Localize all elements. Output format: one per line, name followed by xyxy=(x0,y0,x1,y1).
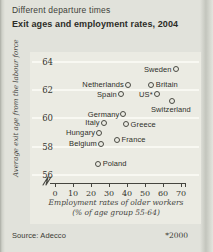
x-tick-label-10: 10 xyxy=(66,189,80,198)
chart-card: Different departure times Exit ages and … xyxy=(0,0,213,252)
x-tick-label-0: 0 xyxy=(48,189,62,198)
point-label-poland: Poland xyxy=(103,159,127,168)
y-tick-label-58: 58 xyxy=(33,142,53,152)
y-tick-label-62: 62 xyxy=(33,85,53,95)
x-tick-60 xyxy=(163,183,164,187)
footnote-year: *2000 xyxy=(120,231,188,240)
x-tick-0 xyxy=(55,183,56,187)
point-label-greece: Greece xyxy=(131,120,156,129)
point-label-belgium: Belgium xyxy=(69,139,97,148)
data-point-italy xyxy=(101,120,107,126)
page-edge-shading-right xyxy=(200,0,213,252)
x-axis-title-line1: Employment rates of older workers xyxy=(46,198,186,207)
y-tick-label-64: 64 xyxy=(33,57,53,67)
x-axis-title-line2: (% of age group 55-64) xyxy=(46,208,186,217)
point-label-netherlands: Netherlands xyxy=(82,80,124,89)
point-label-britain: Britain xyxy=(156,80,178,89)
x-tick-label-60: 60 xyxy=(156,189,170,198)
point-label-us: US* xyxy=(139,90,153,99)
chart-title: Different departure times xyxy=(12,5,202,15)
point-label-italy: Italy xyxy=(85,118,99,127)
point-label-spain: Spain xyxy=(97,90,117,99)
x-tick-label-40: 40 xyxy=(120,189,134,198)
x-tick-label-30: 30 xyxy=(102,189,116,198)
data-point-hungary xyxy=(96,130,102,136)
x-tick-40 xyxy=(127,183,128,187)
data-point-netherlands xyxy=(125,82,131,88)
x-tick-label-70: 70 xyxy=(174,189,188,198)
x-tick-label-50: 50 xyxy=(138,189,152,198)
x-tick-10 xyxy=(73,183,74,187)
x-tick-50 xyxy=(145,183,146,187)
point-label-france: France xyxy=(122,135,146,144)
gridline-64 xyxy=(32,61,199,63)
x-tick-label-20: 20 xyxy=(84,189,98,198)
point-label-switzerland: Switzerland xyxy=(151,105,191,114)
gridline-58 xyxy=(32,146,199,148)
y-tick-label-60: 60 xyxy=(33,113,53,123)
data-point-sweden xyxy=(173,66,179,72)
data-point-poland xyxy=(95,161,101,167)
x-tick-30 xyxy=(109,183,110,187)
x-tick-end xyxy=(185,183,186,187)
data-point-france xyxy=(114,137,120,143)
point-label-sweden: Sweden xyxy=(144,65,172,74)
point-label-hungary: Hungary xyxy=(66,128,95,137)
x-tick-20 xyxy=(91,183,92,187)
x-tick-70 xyxy=(181,183,182,187)
data-point-belgium xyxy=(98,141,104,147)
y-tick-label-56: 56 xyxy=(33,170,53,180)
x-axis-line xyxy=(50,183,186,184)
source-note: Source: Adecco xyxy=(12,231,66,240)
y-axis-title: Average exit age from the labour force xyxy=(12,59,22,177)
gridline-56 xyxy=(32,174,199,176)
chart-subtitle: Exit ages and employment rates, 2004 xyxy=(12,19,202,29)
page-edge-shading-left xyxy=(0,0,5,252)
data-point-britain xyxy=(148,82,154,88)
